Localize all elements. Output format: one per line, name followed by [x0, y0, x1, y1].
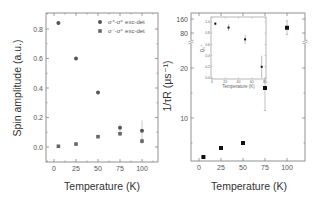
data-point	[140, 139, 144, 143]
inset-plot: 0204060800.00.20.40.60.81.0Temperature (…	[200, 17, 267, 89]
inset-y-tick-label: 1.0	[205, 20, 210, 24]
inset-y-tick-label: 0.6	[205, 43, 210, 47]
legend-square-icon	[98, 29, 102, 33]
inset-x-axis-label: Temperature (K)	[222, 84, 255, 89]
legend: σ⁺-σ⁺ exc-detσ⁻-σ⁺ exc-det	[98, 19, 145, 34]
data-point	[263, 86, 267, 90]
x-tick-label: 100	[136, 165, 148, 172]
legend-circle-icon	[98, 20, 102, 24]
inset-frame	[211, 17, 266, 79]
y-tick-label: 0.0	[33, 144, 43, 151]
y-tick-label: 160	[176, 16, 188, 23]
data-point	[219, 146, 223, 150]
inset-x-tick-label: 80	[263, 80, 267, 84]
y-tick-label: 20	[180, 65, 188, 72]
inset-y-tick-label: 0.8	[205, 31, 210, 35]
inset-y-tick-label: 0.2	[205, 65, 210, 69]
inset-data-point	[228, 27, 230, 29]
y-axis-label: Spin amplitude (a.u.)	[11, 40, 23, 137]
legend-label: σ⁻-σ⁺ exc-det	[108, 28, 145, 34]
x-tick-label: 50	[94, 165, 102, 172]
data-point	[118, 126, 122, 130]
y-axis-label: 1/τR (μs⁻¹)	[161, 60, 173, 111]
y-tick-label: 0.6	[33, 55, 43, 62]
x-tick-label: 25	[72, 165, 80, 172]
y-tick-label: 0.8	[33, 26, 43, 33]
inset-y-axis-label: Q₀⁺	[200, 44, 205, 52]
data-point	[74, 142, 78, 146]
data-point	[201, 155, 205, 159]
left-panel: 02550751000.00.20.40.60.8Temperature (K)…	[11, 13, 158, 192]
x-axis-label: Temperature (K)	[64, 180, 140, 192]
inset-data-point	[214, 23, 216, 25]
x-tick-label: 0	[197, 164, 201, 171]
data-point	[96, 135, 100, 139]
y-tick-label: 80	[180, 30, 188, 37]
data-point	[57, 144, 61, 148]
data-point	[74, 57, 78, 61]
x-tick-label: 25	[217, 164, 225, 171]
data-point	[56, 21, 60, 25]
inset-y-tick-label: 0.4	[205, 54, 210, 58]
data-point	[241, 141, 245, 145]
legend-label: σ⁺-σ⁺ exc-det	[108, 19, 145, 25]
inset-x-tick-label: 0	[211, 80, 213, 84]
data-point	[140, 129, 144, 133]
data-point	[118, 132, 122, 136]
x-axis-label: Temperature (K)	[211, 180, 287, 192]
x-tick-label: 0	[52, 165, 56, 172]
x-tick-label: 75	[261, 164, 269, 171]
y-tick-label: 10	[180, 115, 188, 122]
inset-data-point	[244, 38, 246, 40]
y-tick-label: 0.2	[33, 114, 43, 121]
figure: 02550751000.00.20.40.60.8Temperature (K)…	[0, 0, 321, 197]
x-tick-label: 75	[116, 165, 124, 172]
data-point	[285, 26, 289, 30]
data-point	[96, 90, 100, 94]
x-tick-label: 50	[239, 164, 247, 171]
right-panel: 0255075100102080160Temperature (K)1/τR (…	[161, 13, 308, 192]
x-tick-label: 100	[281, 164, 293, 171]
inset-data-point	[261, 66, 263, 68]
inset-y-tick-label: 0.0	[205, 76, 210, 80]
y-tick-label: 0.4	[33, 85, 43, 92]
